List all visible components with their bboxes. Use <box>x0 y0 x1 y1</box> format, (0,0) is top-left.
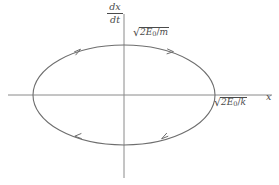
arrow-lower-right-icon <box>162 133 168 139</box>
y-intercept-numerator: 2E <box>140 27 152 37</box>
x-intercept-numerator: 2E <box>221 97 233 107</box>
y-intercept-value-label: √2E0/m <box>133 27 169 38</box>
phase-space-ellipse-figure: dx dt √2E0/m √2E0/k x <box>0 0 279 185</box>
y-intercept-denominator: m <box>160 27 169 37</box>
y-axis-label-numerator: dx <box>104 2 126 13</box>
y-axis-label: dx dt <box>104 2 126 24</box>
x-intercept-value-label: √2E0/k <box>214 97 247 108</box>
y-axis-label-denominator: dt <box>104 14 126 25</box>
x-axis-label: x <box>266 92 271 102</box>
x-intercept-denominator: k <box>241 97 246 107</box>
